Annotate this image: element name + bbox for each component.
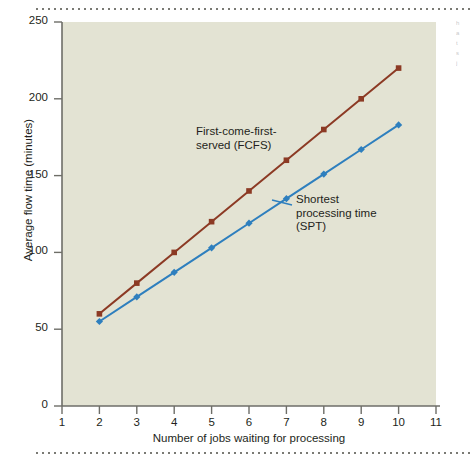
- x-tick-label: 5: [200, 416, 224, 428]
- x-tick-label: 11: [424, 416, 448, 428]
- y-tick-label: 50: [18, 321, 48, 333]
- x-tick-label: 9: [349, 416, 373, 428]
- x-axis-title: Number of jobs waiting for processing: [62, 432, 436, 444]
- y-tick-label: 100: [18, 244, 48, 256]
- x-tick-label: 4: [162, 416, 186, 428]
- x-tick-label: 8: [312, 416, 336, 428]
- x-tick-label: 6: [237, 416, 261, 428]
- y-tick-label: 200: [18, 91, 48, 103]
- x-tick-label: 1: [50, 416, 74, 428]
- y-axis-title: Average flow time (minutes): [22, 90, 34, 290]
- x-tick-label: 10: [387, 416, 411, 428]
- x-tick-label: 7: [274, 416, 298, 428]
- series-annotation-spt: Shortest processing time (SPT): [296, 193, 377, 234]
- series-annotation-fcfs: First-come-first- served (FCFS): [196, 125, 277, 152]
- x-tick-label: 3: [125, 416, 149, 428]
- chart-canvas: [0, 0, 472, 466]
- y-tick-label: 250: [18, 14, 48, 26]
- y-tick-label: 0: [18, 398, 48, 410]
- x-tick-label: 2: [87, 416, 111, 428]
- y-tick-label: 150: [18, 168, 48, 180]
- x-axis-ticks: [62, 406, 436, 414]
- y-axis-ticks: [54, 22, 62, 406]
- chart-figure: h a t s j Average flow time (minutes) Nu…: [0, 0, 472, 466]
